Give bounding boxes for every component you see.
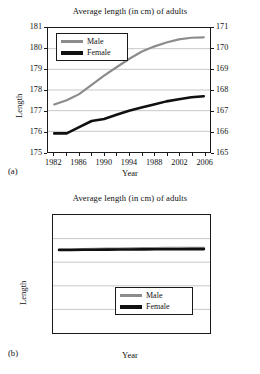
axis-tick	[129, 153, 130, 156]
figure-container: Average length (in cm) of adults Length …	[0, 0, 260, 374]
axis-tick	[44, 111, 47, 112]
axis-tick	[44, 69, 47, 70]
axis-tick	[211, 90, 214, 91]
axis-tick	[44, 132, 47, 133]
legend-label-female: Female	[87, 47, 111, 58]
axis-tick	[211, 48, 214, 49]
axis-tick	[211, 69, 214, 70]
y-tick-label: 177	[15, 106, 42, 115]
axis-tick	[211, 153, 214, 154]
chart-legend-a[interactable]: Male Female	[56, 33, 128, 61]
axis-tick	[211, 111, 214, 112]
y-tick-label: 181	[15, 22, 42, 31]
legend-swatch-male	[120, 294, 142, 297]
axis-tick	[211, 132, 214, 133]
legend-item-male[interactable]: Male	[61, 36, 123, 47]
y-axis-label-b: Length	[18, 281, 28, 305]
axis-tick	[179, 153, 180, 156]
axis-tick	[192, 153, 193, 156]
y2-tick-label: 165	[216, 148, 246, 157]
axis-tick	[44, 153, 47, 154]
legend-swatch-female	[120, 305, 142, 309]
legend-item-female[interactable]: Female	[61, 47, 123, 58]
x-axis-label-a: Year	[0, 168, 260, 178]
axis-tick	[44, 90, 47, 91]
legend-swatch-female	[61, 51, 83, 55]
y-tick-label: 178	[15, 85, 42, 94]
y2-tick-label: 169	[216, 64, 246, 73]
legend-item-female[interactable]: Female	[120, 301, 188, 312]
panel-label-b: (b)	[8, 348, 18, 358]
chart-title-b: Average length (in cm) of adults	[0, 193, 260, 203]
chart-legend-b[interactable]: Male Female	[115, 287, 193, 315]
axis-tick	[79, 153, 80, 156]
legend-swatch-male	[61, 40, 83, 43]
plot-area-b	[52, 214, 211, 334]
legend-item-male[interactable]: Male	[120, 290, 188, 301]
y-tick-label: 176	[15, 127, 42, 136]
chart-panel-b: Average length (in cm) of adults Length …	[0, 187, 260, 374]
y2-tick-label: 168	[216, 85, 246, 94]
axis-tick	[44, 48, 47, 49]
axis-tick	[211, 27, 214, 28]
y2-tick-label: 167	[216, 106, 246, 115]
axis-tick	[116, 153, 117, 156]
axis-tick	[44, 27, 47, 28]
axis-tick	[104, 153, 105, 156]
y-tick-label: 175	[15, 148, 42, 157]
axis-tick	[205, 153, 206, 156]
axis-tick	[142, 153, 143, 156]
legend-label-female: Female	[146, 301, 170, 312]
axis-tick	[154, 153, 155, 156]
y2-tick-label: 170	[216, 43, 246, 52]
legend-label-male: Male	[146, 290, 162, 301]
axis-tick	[53, 153, 54, 156]
axis-tick	[91, 153, 92, 156]
y-tick-label: 180	[15, 43, 42, 52]
legend-label-male: Male	[87, 36, 103, 47]
chart-title-a: Average length (in cm) of adults	[0, 6, 260, 16]
panel-label-a: (a)	[8, 166, 18, 176]
y-tick-label: 179	[15, 64, 42, 73]
chart-canvas-b	[53, 215, 210, 333]
x-tick-label: 2006	[190, 158, 220, 167]
axis-tick	[167, 153, 168, 156]
y2-tick-label: 171	[216, 22, 246, 31]
x-axis-label-b: Year	[0, 350, 260, 360]
axis-tick	[66, 153, 67, 156]
chart-panel-a: Average length (in cm) of adults Length …	[0, 0, 260, 187]
y2-tick-label: 166	[216, 127, 246, 136]
